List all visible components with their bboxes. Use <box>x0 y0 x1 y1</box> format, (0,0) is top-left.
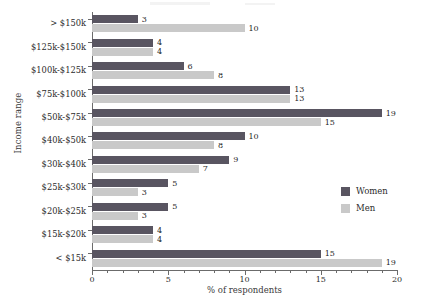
bar-value-label: 3 <box>142 16 147 24</box>
bar-group: $50k-$75k1915 <box>92 106 397 129</box>
legend-label: Men <box>356 203 375 213</box>
bar-women <box>92 132 245 140</box>
y-axis-category-label: $20k-$25k <box>42 207 86 216</box>
x-axis-minor-tick <box>214 270 215 273</box>
bar-group: $75k-$100k1313 <box>92 82 397 105</box>
bar-value-label: 5 <box>172 203 177 211</box>
x-axis-tick-label: 10 <box>239 275 249 284</box>
y-axis-category-label: < $15k <box>56 254 86 263</box>
bar-men <box>92 48 153 56</box>
bar-men <box>92 24 245 32</box>
x-axis-minor-tick <box>153 270 154 273</box>
bar-value-label: 19 <box>386 110 396 118</box>
plot-area: > $150k310$125k-$150k44$100k-$125k68$75k… <box>92 12 397 270</box>
bar-group: < $15k1519 <box>92 247 397 270</box>
bar-men <box>92 165 199 173</box>
x-axis-minor-tick <box>306 270 307 273</box>
bar-group: $125k-$150k44 <box>92 35 397 58</box>
y-axis-category-label: $15k-$20k <box>42 230 86 239</box>
bar-women <box>92 203 168 211</box>
bar-women <box>92 109 382 117</box>
y-axis-title: Income range <box>13 68 23 178</box>
bar-value-label: 15 <box>325 250 335 258</box>
bar-value-label: 4 <box>157 227 162 235</box>
bar-value-label: 13 <box>294 95 304 103</box>
x-axis-tick-label: 0 <box>89 275 94 284</box>
bar-value-label: 10 <box>249 133 259 141</box>
x-axis-minor-tick <box>229 270 230 273</box>
bar-women <box>92 250 321 258</box>
x-axis-minor-tick <box>290 270 291 273</box>
bar-value-label: 8 <box>218 72 223 80</box>
bar-value-label: 9 <box>233 156 238 164</box>
bar-men <box>92 141 214 149</box>
x-axis-minor-tick <box>260 270 261 273</box>
bar-women <box>92 226 153 234</box>
bar-value-label: 3 <box>142 189 147 197</box>
bar-group: $100k-$125k68 <box>92 59 397 82</box>
bar-men <box>92 95 290 103</box>
x-axis-minor-tick <box>336 270 337 273</box>
x-axis-minor-tick <box>351 270 352 273</box>
bar-group: $40k-$50k108 <box>92 129 397 152</box>
bar-women <box>92 86 290 94</box>
legend-label: Women <box>356 186 388 196</box>
bar-value-label: 13 <box>294 86 304 94</box>
bar-men <box>92 118 321 126</box>
legend-item: Women <box>341 186 388 196</box>
bar-men <box>92 188 138 196</box>
x-axis-minor-tick <box>275 270 276 273</box>
y-axis-category-label: $25k-$30k <box>42 183 86 192</box>
chart-legend: WomenMen <box>341 186 388 220</box>
bar-chart: Income range % of respondents > $150k310… <box>0 0 429 305</box>
scan-artifact <box>150 2 210 5</box>
bar-women <box>92 39 153 47</box>
y-axis-category-label: $30k-$40k <box>42 160 86 169</box>
y-axis-category-label: > $150k <box>50 19 86 28</box>
x-axis-minor-tick <box>138 270 139 273</box>
bar-value-label: 8 <box>218 142 223 150</box>
bar-men <box>92 71 214 79</box>
legend-item: Men <box>341 203 388 213</box>
bar-value-label: 6 <box>188 63 193 71</box>
bar-value-label: 10 <box>249 25 259 33</box>
y-axis-category-label: $125k-$150k <box>31 43 86 52</box>
x-axis-tick-label: 15 <box>316 275 326 284</box>
x-axis-minor-tick <box>184 270 185 273</box>
bar-group: $15k-$20k44 <box>92 223 397 246</box>
bar-value-label: 7 <box>203 165 208 173</box>
bar-value-label: 19 <box>386 259 396 267</box>
bar-men <box>92 235 153 243</box>
x-axis-minor-tick <box>199 270 200 273</box>
bar-value-label: 4 <box>157 236 162 244</box>
x-axis-tick-label: 5 <box>166 275 171 284</box>
x-axis-minor-tick <box>367 270 368 273</box>
bar-group: > $150k310 <box>92 12 397 35</box>
bar-group: $30k-$40k97 <box>92 153 397 176</box>
bar-women <box>92 15 138 23</box>
x-axis-minor-tick <box>123 270 124 273</box>
y-axis-category-label: $100k-$125k <box>31 66 86 75</box>
y-axis-category-label: $40k-$50k <box>42 136 86 145</box>
x-axis-tick-label: 20 <box>392 275 402 284</box>
bar-women <box>92 156 229 164</box>
legend-swatch <box>341 204 350 213</box>
x-axis-minor-tick <box>382 270 383 273</box>
bar-men <box>92 212 138 220</box>
x-axis-title: % of respondents <box>92 285 397 295</box>
bar-value-label: 3 <box>142 212 147 220</box>
bar-women <box>92 179 168 187</box>
bar-value-label: 4 <box>157 48 162 56</box>
bar-women <box>92 62 184 70</box>
legend-swatch <box>341 187 350 196</box>
y-axis-category-label: $75k-$100k <box>36 90 86 99</box>
y-axis-category-label: $50k-$75k <box>42 113 86 122</box>
scan-artifact <box>245 3 275 5</box>
bar-men <box>92 259 382 267</box>
bar-value-label: 4 <box>157 39 162 47</box>
bar-value-label: 5 <box>172 180 177 188</box>
bar-value-label: 15 <box>325 119 335 127</box>
x-axis-minor-tick <box>107 270 108 273</box>
